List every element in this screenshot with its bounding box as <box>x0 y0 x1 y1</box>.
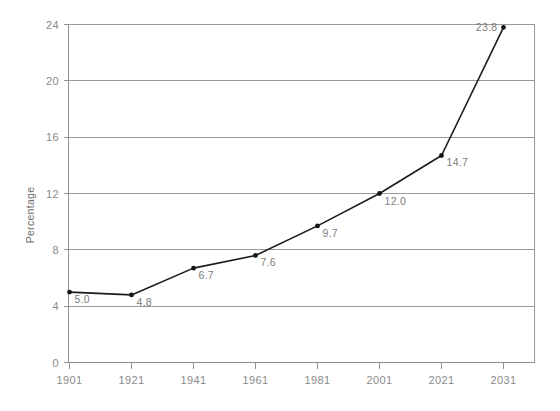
y-tick-label-8: 8 <box>52 244 59 256</box>
data-label-2021: 14.7 <box>447 156 469 168</box>
data-label-1921: 4.8 <box>137 296 153 308</box>
chart-figure: 24 20 16 12 8 4 0 Percentage 1901 1921 1… <box>0 0 560 411</box>
data-point-1961 <box>253 253 258 258</box>
data-point-1921 <box>129 293 134 298</box>
y-tick-label-24: 24 <box>46 19 59 31</box>
data-point-2031 <box>501 25 506 30</box>
y-tick-marks <box>64 25 69 363</box>
x-tick-labels: 1901 1921 1941 1961 1981 2001 2021 2031 <box>56 374 516 386</box>
x-tick-label-2001: 2001 <box>366 374 392 386</box>
data-label-2001: 12.0 <box>385 195 407 207</box>
x-tick-marks <box>70 363 504 369</box>
x-tick-label-1941: 1941 <box>180 374 206 386</box>
data-label-1901: 5.0 <box>75 293 91 305</box>
data-point-2021 <box>439 153 444 158</box>
line-chart: 24 20 16 12 8 4 0 Percentage 1901 1921 1… <box>0 0 560 411</box>
x-tick-label-1921: 1921 <box>118 374 144 386</box>
data-point-1901 <box>67 290 72 295</box>
y-tick-label-0: 0 <box>52 357 59 369</box>
data-label-1981: 9.7 <box>323 227 339 239</box>
data-point-1941 <box>191 266 196 271</box>
y-tick-label-20: 20 <box>46 75 59 87</box>
x-tick-label-1961: 1961 <box>242 374 268 386</box>
x-tick-label-2021: 2021 <box>428 374 454 386</box>
y-axis-title: Percentage <box>24 187 36 244</box>
x-tick-label-1981: 1981 <box>304 374 330 386</box>
y-tick-label-4: 4 <box>52 300 59 312</box>
data-label-1961: 7.6 <box>261 256 277 268</box>
x-tick-label-2031: 2031 <box>490 374 516 386</box>
x-tick-label-1901: 1901 <box>56 374 82 386</box>
y-tick-labels: 24 20 16 12 8 4 0 <box>46 19 59 369</box>
data-point-2001 <box>377 191 382 196</box>
y-tick-label-12: 12 <box>46 188 59 200</box>
y-tick-label-16: 16 <box>46 131 59 143</box>
data-point-1981 <box>315 223 320 228</box>
data-label-2031: 23.8 <box>476 21 498 33</box>
data-label-1941: 6.7 <box>199 269 215 281</box>
